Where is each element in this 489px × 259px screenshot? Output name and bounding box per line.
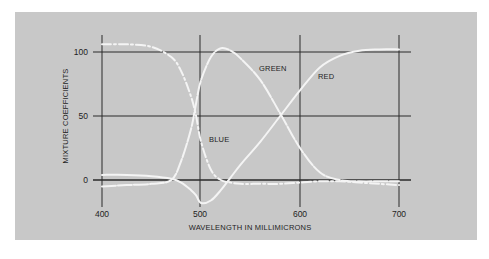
curve-blue (102, 44, 399, 185)
y-tick-0: 0 (83, 175, 88, 185)
x-tick-700: 700 (392, 209, 406, 219)
annotation-green: GREEN (259, 64, 287, 73)
x-tick-600: 600 (293, 209, 307, 219)
y-tick-100: 100 (74, 47, 88, 57)
x-tick-400: 400 (95, 209, 109, 219)
chart-svg: 100 50 0 400 500 600 700 WAVELENGTH IN M… (0, 0, 489, 259)
curve-green (102, 48, 399, 187)
annotation-blue: BLUE (209, 135, 229, 144)
y-tick-50: 50 (79, 111, 89, 121)
annotation-red: RED (318, 72, 335, 81)
y-axis-label: MIXTURE COEFFICIENTS (61, 69, 70, 164)
x-tick-500: 500 (193, 209, 207, 219)
x-axis-label: WAVELENGTH IN MILLIMICRONS (189, 223, 312, 232)
